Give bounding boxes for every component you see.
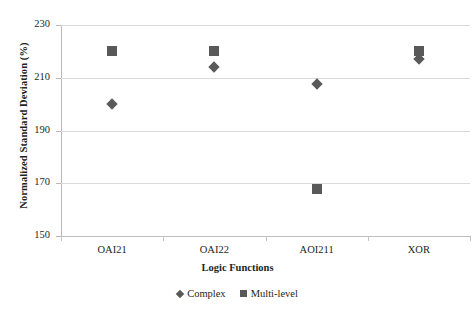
y-axis-tick-label: 170 <box>14 176 50 187</box>
x-axis-tick-mark <box>163 236 164 241</box>
data-point-square <box>414 46 424 56</box>
legend-item-complex: Complex <box>177 288 226 299</box>
data-point-diamond <box>311 79 322 90</box>
y-axis-tick-label: 150 <box>14 229 50 240</box>
x-axis-tick-mark <box>266 236 267 241</box>
y-axis-tick-label: 210 <box>14 71 50 82</box>
x-axis-tick-label: OAI21 <box>62 244 162 255</box>
x-axis-tick-label: OAI22 <box>164 244 264 255</box>
diamond-icon <box>176 289 184 297</box>
y-axis-tick-label: 230 <box>14 18 50 29</box>
data-point-square <box>312 184 322 194</box>
square-icon <box>240 290 247 297</box>
x-axis-tick-label: XOR <box>369 244 469 255</box>
y-axis-tick-label: 190 <box>14 124 50 135</box>
data-point-square <box>107 46 117 56</box>
data-point-diamond <box>106 98 117 109</box>
x-axis-tick-mark <box>61 236 62 241</box>
chart-legend: Complex Multi-level <box>0 288 475 299</box>
gridline <box>61 183 470 184</box>
gridline <box>61 25 470 26</box>
x-axis-tick-mark <box>368 236 369 241</box>
x-axis-title: Logic Functions <box>0 262 475 273</box>
data-point-diamond <box>209 62 220 73</box>
x-axis-tick-label: AOI211 <box>267 244 367 255</box>
gridline <box>61 78 470 79</box>
gridline <box>61 131 470 132</box>
plot-area <box>61 25 470 236</box>
legend-label-complex: Complex <box>187 288 226 299</box>
data-point-square <box>209 46 219 56</box>
legend-item-multi-level: Multi-level <box>240 288 298 299</box>
chart-figure: Normalized Standard Deviation (%) 150170… <box>0 0 475 316</box>
x-axis-tick-mark <box>470 236 471 241</box>
legend-label-multi-level: Multi-level <box>251 288 298 299</box>
